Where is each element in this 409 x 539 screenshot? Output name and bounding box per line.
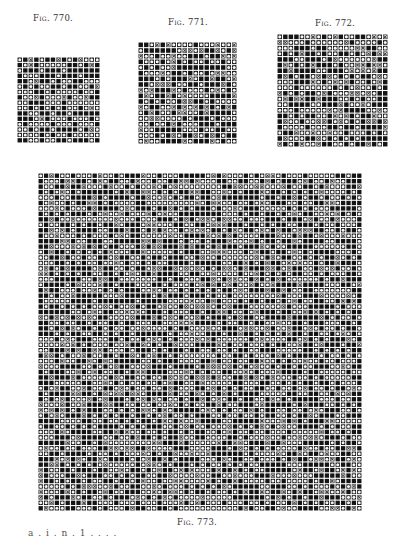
weave-cell-cross (211, 223, 215, 227)
weave-cell-cross (319, 490, 323, 494)
weave-cell-dot (278, 35, 282, 40)
weave-cell-cross (319, 343, 323, 347)
weave-cell-black (314, 239, 318, 243)
weave-cell-cross (188, 77, 192, 82)
weave-cell-dot (292, 408, 296, 412)
weave-cell-cross (298, 261, 302, 265)
weave-cell-dot (341, 435, 345, 439)
weave-cell-black (114, 435, 118, 439)
weave-cell-black (179, 228, 183, 232)
weave-cell-black (265, 462, 269, 466)
weave-cell-black (282, 310, 286, 314)
weave-cell-dot (238, 337, 242, 341)
weave-cell-dot (157, 343, 161, 347)
weave-cell-black (136, 234, 140, 238)
weave-cell-dot (265, 424, 269, 428)
weave-cell-dot (336, 462, 340, 466)
weave-cell-dot (233, 272, 237, 276)
weave-cell-dot (44, 195, 48, 199)
weave-cell-black (309, 375, 313, 379)
weave-cell-dot (157, 261, 161, 265)
weave-cell-dot (136, 397, 140, 401)
weave-cell-black (201, 288, 205, 292)
weave-cell-dot (44, 484, 48, 488)
weave-cell-dot (136, 375, 140, 379)
weave-cell-dot (249, 343, 253, 347)
weave-cell-black (287, 190, 291, 194)
weave-cell-dot (255, 261, 259, 265)
weave-cell-black (82, 272, 86, 276)
weave-cell-black (357, 430, 361, 434)
weave-cell-dot (201, 479, 205, 483)
weave-cell-black (336, 446, 340, 450)
weave-cell-black (292, 386, 296, 390)
weave-cell-black (71, 195, 75, 199)
weave-cell-black (55, 337, 59, 341)
weave-cell-dot (82, 234, 86, 238)
weave-cell-cross (265, 326, 269, 330)
weave-cell-dot (211, 424, 215, 428)
weave-cell-dot (73, 133, 77, 137)
weave-cell-dot (303, 473, 307, 477)
weave-cell-dot (206, 272, 210, 276)
weave-cell-black (39, 184, 43, 188)
weave-cell-dot (103, 501, 107, 505)
weave-cell-dot (195, 277, 199, 281)
weave-cell-dot (300, 91, 304, 96)
weave-cell-dot (276, 506, 280, 510)
weave-cell-black (103, 283, 107, 287)
weave-cell-cross (201, 217, 205, 221)
weave-cell-cross (238, 332, 242, 336)
weave-cell-cross (228, 364, 232, 368)
weave-cell-dot (56, 95, 60, 99)
weave-cell-dot (163, 381, 167, 385)
weave-cell-cross (60, 190, 64, 194)
weave-cell-black (76, 266, 80, 270)
weave-cell-black (201, 315, 205, 319)
weave-cell-cross (130, 315, 134, 319)
weave-cell-black (303, 250, 307, 254)
weave-cell-dot (325, 506, 329, 510)
weave-cell-black (366, 80, 370, 85)
weave-cell-cross (71, 244, 75, 248)
weave-cell-cross (309, 228, 313, 232)
weave-cell-cross (109, 250, 113, 254)
weave-cell-dot (44, 184, 48, 188)
weave-cell-dot (93, 381, 97, 385)
weave-cell-dot (357, 266, 361, 270)
weave-cell-black (298, 272, 302, 276)
weave-cell-dot (66, 283, 70, 287)
weave-cell-black (67, 84, 71, 88)
weave-cell-dot (298, 348, 302, 352)
weave-cell-dot (232, 139, 236, 144)
weave-cell-dot (260, 299, 264, 303)
weave-cell-black (228, 244, 232, 248)
weave-cell-black (282, 370, 286, 374)
weave-cell-dot (336, 244, 340, 248)
weave-cell-black (190, 403, 194, 407)
weave-cell-cross (76, 473, 80, 477)
weave-cell-dot (78, 122, 82, 126)
weave-cell-black (157, 217, 161, 221)
weave-cell-black (44, 321, 48, 325)
weave-cell-black (238, 468, 242, 472)
weave-cell-black (60, 370, 64, 374)
weave-cell-dot (260, 255, 264, 259)
weave-cell-black (344, 125, 348, 130)
weave-cell-dot (276, 310, 280, 314)
weave-cell-dot (357, 506, 361, 510)
weave-cell-black (233, 446, 237, 450)
weave-cell-cross (44, 272, 48, 276)
weave-cell-black (71, 239, 75, 243)
weave-cell-black (276, 261, 280, 265)
weave-cell-dot (184, 381, 188, 385)
weave-cell-dot (130, 403, 134, 407)
weave-cell-black (195, 234, 199, 238)
weave-cell-black (336, 495, 340, 499)
weave-cell-dot (141, 179, 145, 183)
weave-cell-cross (147, 462, 151, 466)
weave-cell-black (172, 82, 176, 87)
weave-cell-dot (366, 102, 370, 107)
weave-cell-cross (152, 272, 156, 276)
weave-cell-dot (244, 293, 248, 297)
